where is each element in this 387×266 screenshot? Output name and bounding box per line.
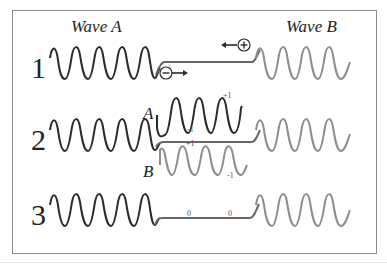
wave-b-lower-row2	[160, 146, 247, 175]
wave-a-upper-row2	[157, 98, 242, 136]
zero-line-row3	[155, 204, 259, 225]
lower-plus-label: +1	[186, 140, 195, 148]
upper-minus-label: -1	[187, 126, 194, 134]
upper-plus-label: +1	[223, 92, 232, 100]
zero-line-row2	[156, 130, 260, 147]
wave-b-row3	[256, 194, 350, 226]
wave-a-row1	[50, 47, 160, 79]
component-a-label: A	[143, 104, 153, 124]
wave-a-title: Wave A	[71, 17, 122, 37]
negative-charge-icon	[160, 67, 188, 79]
component-b-label: B	[143, 162, 153, 182]
wave-b-row2	[256, 119, 350, 151]
wave-b-row1	[256, 47, 350, 79]
row-3-number: 3	[31, 200, 46, 230]
positive-charge-icon	[221, 39, 250, 51]
zero-label-left: 0	[187, 210, 191, 218]
lower-minus-label: -1	[227, 172, 234, 180]
zero-label-right: 0	[228, 210, 232, 218]
row-2-number: 2	[31, 125, 46, 155]
wave-a-row3	[50, 194, 160, 226]
wave-b-title: Wave B	[286, 17, 337, 37]
row-1-number: 1	[31, 53, 46, 83]
